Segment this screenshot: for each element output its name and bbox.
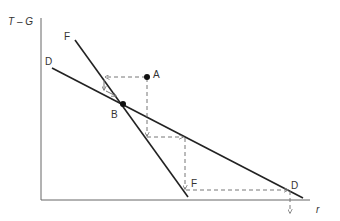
axes: T – G r [8, 16, 320, 215]
curve-d-label-right: D [291, 180, 298, 191]
curve-d-label-left: D [45, 56, 52, 67]
point-b-label: B [111, 109, 118, 120]
fiscal-diagram: T – G r F F D D A B [0, 0, 340, 221]
point-a-dot [144, 74, 150, 80]
point-b: B [111, 101, 126, 120]
curve-f-label-bottom: F [191, 178, 197, 189]
point-b-dot [120, 101, 126, 107]
point-a: A [144, 69, 160, 80]
curve-f: F F [64, 31, 197, 197]
curve-f-label-top: F [64, 31, 70, 42]
x-axis-label: r [316, 204, 320, 215]
dash-conv-right [106, 91, 116, 96]
curve-d-line [52, 68, 303, 198]
curve-f-line [75, 40, 188, 197]
adjustment-path [104, 77, 290, 213]
point-a-label: A [153, 69, 160, 80]
y-axis-label: T – G [8, 16, 33, 27]
